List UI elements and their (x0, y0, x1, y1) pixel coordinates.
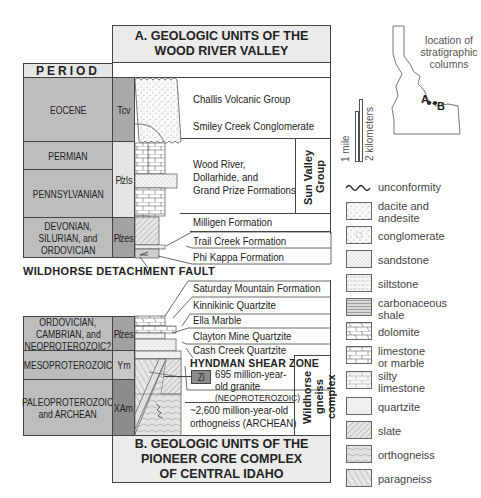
period-devonian-silurian-ordovician: DEVONIAN, SILURIAN, and ORDOVICIAN (23, 217, 113, 258)
swatch-paragneiss (346, 469, 372, 487)
legend-carbonaceous-shale: carbonaceousshale (378, 297, 447, 321)
period-paleoproterozoic-archean: PALEOPROTEROZOIC and ARCHEAN (23, 379, 113, 436)
unit-smiley-creek-conglomerate: Smiley Creek Conglomerate (193, 120, 331, 132)
title-b-line1: B. GEOLOGIC UNITS OF THE (113, 437, 330, 452)
symbol-tcv: Tcv (112, 77, 135, 142)
unit-ella-marble: Ella Marble (193, 314, 248, 326)
legend-silty-limestone: siltylimestone (378, 370, 425, 394)
swatch-conglomerate (346, 226, 372, 244)
symbol-pzls: P̸zls (112, 141, 135, 218)
legend-unconformity: unconformity (378, 181, 441, 193)
swatch-orthogneiss (346, 445, 372, 463)
unit-saturday-mountain-formation: Saturday Mountain Formation (193, 282, 338, 294)
rule-granite (185, 402, 294, 403)
legend-slate: slate (378, 425, 401, 437)
scale-bar-km (359, 99, 363, 162)
map-caption: location of stratigraphic columns (418, 34, 480, 70)
sun-valley-group-label-2: Group (314, 161, 326, 194)
symbol-xam: XAm (112, 379, 135, 436)
rule-wood-river (180, 213, 331, 214)
period-permian: PERMIAN (23, 141, 113, 170)
legend-quartzite: quartzite (378, 401, 420, 413)
wildhorse-detachment-fault-label: WILDHORSE DETACHMENT FAULT (23, 265, 215, 277)
swatch-quartzite (346, 397, 372, 415)
swatch-silty-limestone (346, 371, 372, 389)
unit-kinnikinic-quartzite: Kinnikinic Quartzite (193, 299, 287, 311)
unit-wood-river: Wood River, Dollarhide, and Grand Prize … (193, 158, 310, 197)
unit-cash-creek-quartzite: Cash Creek Quartzite (193, 344, 299, 356)
swatch-dolomite (346, 322, 372, 340)
unit-milligen-formation: Milligen Formation (193, 216, 283, 228)
title-b: B. GEOLOGIC UNITS OF THE PIONEER CORE CO… (112, 435, 331, 483)
legend-dolomite: dolomite (378, 326, 420, 338)
swatch-carbonaceous-shale (346, 298, 372, 316)
swatch-sandstone (346, 250, 372, 268)
symbol-pzes-a: P̸zes (112, 217, 135, 258)
legend-dacite: dacite andandesite (378, 200, 429, 224)
wildhorse-label-2: gneiss complex (313, 375, 337, 420)
unit-clayton-mine-quartzite: Clayton Mine Quartzite (193, 330, 305, 342)
period-header: PERIOD (23, 63, 113, 78)
legend-paragneiss: paragneiss (378, 473, 432, 485)
scale-label-mile: 1 mile (340, 135, 351, 162)
period-eocene: EOCENE (23, 77, 113, 142)
wildhorse-label-1: Wildhorse (301, 370, 313, 423)
period-pennsylvanian: PENNSYLVANIAN (23, 169, 113, 218)
sun-valley-group-label-1: Sun Valley (302, 149, 314, 204)
zi-leader (164, 376, 191, 377)
orthogneiss-description: ~2,600 million-year-old orthogneiss (ARC… (190, 404, 311, 430)
leader-lines-a (158, 228, 332, 268)
map-point-a-label: A (421, 93, 429, 105)
period-ordovician-cambrian-neoproterozoic: ORDOVICIAN, CAMBRIAN, and NEOPROTEROZOIC… (23, 316, 113, 351)
unit-challis-volcanic-group: Challis Volcanic Group (193, 93, 304, 105)
map-point-b-label: B (437, 100, 445, 112)
swatch-siltstone (346, 274, 372, 292)
legend-sandstone: sandstone (378, 254, 429, 266)
swatch-slate (346, 421, 372, 439)
wildhorse-gneiss-complex-box: Wildhorse gneiss complex (294, 355, 331, 436)
fault-leader (138, 256, 158, 270)
title-a: A. GEOLOGIC UNITS OF THE WOOD RIVER VALL… (112, 25, 331, 63)
swatch-limestone (346, 346, 372, 364)
scale-label-km: 2 kilometers (364, 107, 375, 161)
symbol-zi: Zi (191, 370, 211, 384)
legend-siltstone: siltstone (378, 278, 418, 290)
title-b-line3: OF CENTRAL IDAHO (113, 467, 330, 482)
unconformity-icon (345, 182, 373, 192)
symbol-ym: Ym (112, 350, 135, 380)
legend-conglomerate: conglomerate (378, 230, 445, 242)
period-mesoproterozoic: MESOPROTEROZOIC (23, 350, 113, 380)
symbol-pzes-b: P̸zes (112, 316, 135, 351)
swatch-dacite (346, 202, 372, 220)
title-a-line1: A. GEOLOGIC UNITS OF THE (113, 29, 330, 44)
title-b-line2: PIONEER CORE COMPLEX (113, 452, 330, 467)
legend-limestone: limestoneor marble (378, 345, 425, 369)
sun-valley-group-box: Sun Valley Group (295, 138, 331, 214)
title-a-line2: WOOD RIVER VALLEY (113, 44, 330, 59)
legend-orthogneiss: orthogneiss (378, 449, 435, 461)
